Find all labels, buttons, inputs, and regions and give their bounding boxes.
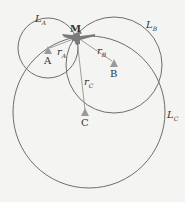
point-label-a: A [44,56,51,66]
point-label-c: C [81,118,89,128]
trilateration-diagram: LA LB LC M A B C rA rB rC [0,0,185,202]
label-rc: rC [84,77,93,89]
diagram-canvas [0,0,185,202]
point-label-b: B [110,69,117,79]
station-c-marker-icon [81,108,89,116]
label-lc: LC [167,110,178,122]
radius-line-b [78,38,112,61]
label-ra: rA [57,47,66,59]
label-lb: LB [146,20,157,32]
label-la: LA [35,14,46,26]
circle-lc [13,36,165,188]
point-label-m: M [70,24,81,34]
label-rb: rB [97,46,106,58]
